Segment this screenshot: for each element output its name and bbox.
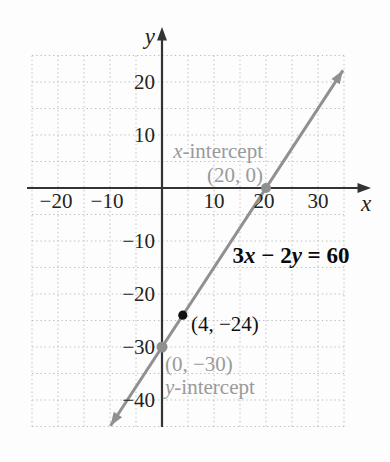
y-tick-label-10: 10 [134,123,155,147]
x-tick-label-neg-10: −10 [91,189,124,213]
x-intercept-title: x-intercept [172,139,263,163]
y-tick-label-20: 20 [134,70,155,94]
y-intercept-coords: (0, −30) [165,352,233,376]
graph-figure: y x 20 10 −10 −20 −30 −40 −20 −10 10 20 … [0,0,390,462]
x-tick-label-10: 10 [204,189,225,213]
y-intercept-point [157,342,168,353]
y-axis-title: y [143,24,156,49]
coordinate-plane: y x 20 10 −10 −20 −30 −40 −20 −10 10 20 … [0,0,390,462]
x-tick-label-neg-20: −20 [40,189,73,213]
line-arrow-down-icon [111,412,123,426]
x-axis-title: x [360,191,372,216]
x-tick-label-30: 30 [308,189,329,213]
y-intercept-title: y-intercept [163,375,255,399]
y-tick-label-neg-30: −30 [122,335,155,359]
equation-label: 3x − 2y = 60 [233,243,350,268]
x-intercept-coords: (20, 0) [207,163,263,187]
y-tick-label-neg-20: −20 [122,282,155,306]
x-tick-label-20: 20 [254,189,275,213]
y-axis-arrow-icon [157,27,167,41]
y-tick-label-neg-40: −40 [122,388,155,412]
y-tick-label-neg-10: −10 [122,229,155,253]
point-label: (4, −24) [191,312,259,336]
line-arrow-up-icon [331,70,343,84]
highlighted-point [178,311,187,320]
